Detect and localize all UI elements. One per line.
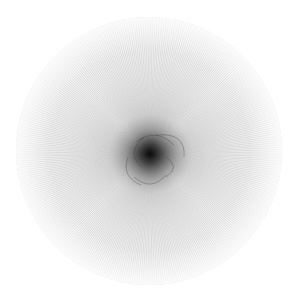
radial-moire-disc <box>16 17 282 285</box>
radial-pattern-graphic <box>16 17 282 285</box>
